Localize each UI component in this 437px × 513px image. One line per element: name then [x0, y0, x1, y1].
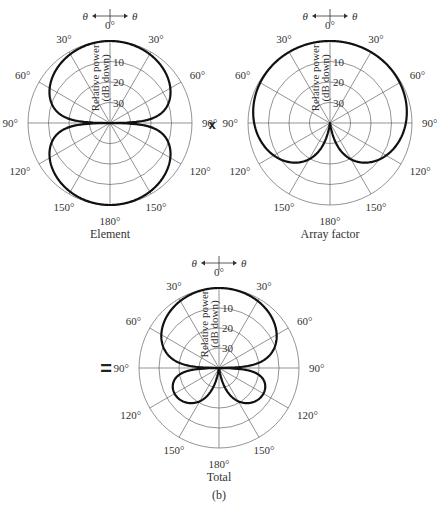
theta-symbol-left: θ: [83, 10, 89, 22]
angle-label: 90°: [223, 117, 238, 129]
arrow-left-icon: [312, 14, 316, 19]
times-operator: x: [208, 117, 216, 132]
figure-label: (b): [212, 488, 226, 502]
theta-symbol-right: θ: [241, 257, 247, 269]
arrow-right-icon: [344, 14, 348, 19]
angle-label: 60°: [126, 315, 141, 327]
angle-label: 30°: [368, 33, 383, 45]
angle-label: 150°: [274, 201, 295, 213]
radial-tick-label: 30: [113, 97, 125, 109]
angle-label: 150°: [146, 201, 167, 213]
radial-tick-label: 20: [222, 322, 234, 334]
angle-label: 90°: [114, 362, 129, 374]
polar-figure: 0°30°30°60°60°90°90°120°120°150°150°180°…: [0, 0, 437, 513]
angle-label: 60°: [410, 69, 425, 81]
radial-tick-label: 10: [333, 56, 345, 68]
angle-label: 30°: [256, 280, 271, 292]
angle-label: 180°: [100, 215, 121, 227]
polar-plot-array_factor: 0°30°30°60°60°90°90°120°120°150°150°180°…: [223, 9, 437, 241]
theta-symbol-left: θ: [192, 257, 198, 269]
angle-label: 30°: [166, 280, 181, 292]
angle-label: 30°: [56, 33, 71, 45]
polar-plot-element: 0°30°30°60°60°90°90°120°120°150°150°180°…: [3, 9, 218, 241]
theta-symbol-left: θ: [303, 10, 309, 22]
radial-tick-label: 10: [113, 56, 125, 68]
theta-symbol-right: θ: [132, 10, 138, 22]
angle-label: 30°: [148, 33, 163, 45]
arrow-left-icon: [201, 261, 205, 266]
angle-label: 90°: [3, 117, 18, 129]
angle-label: 180°: [209, 458, 230, 470]
arrow-left-icon: [92, 14, 96, 19]
angle-label: 150°: [254, 444, 275, 456]
angle-label: 120°: [410, 165, 431, 177]
angle-label: 30°: [276, 33, 291, 45]
angle-label: 90°: [422, 117, 437, 129]
radial-tick-label: 30: [222, 342, 234, 354]
arrow-right-icon: [124, 14, 128, 19]
radial-tick-label: 20: [113, 76, 125, 88]
angle-label: 60°: [15, 69, 30, 81]
angle-label: 60°: [297, 315, 312, 327]
radial-axis-label: Relative power(dB down): [309, 44, 332, 111]
radial-axis-label: Relative power(dB down): [198, 290, 221, 357]
angle-label: 120°: [229, 165, 250, 177]
angle-label: 150°: [164, 444, 185, 456]
angle-label: 180°: [320, 215, 341, 227]
angle-label: 60°: [190, 69, 205, 81]
radial-tick-label: 30: [333, 97, 345, 109]
radial-tick-label: 20: [333, 76, 345, 88]
plot-caption-element: Element: [90, 227, 131, 241]
theta-symbol-right: θ: [352, 10, 358, 22]
angle-label: 120°: [120, 409, 141, 421]
arrow-right-icon: [233, 261, 237, 266]
angle-label: 60°: [235, 69, 250, 81]
equals-operator: =: [100, 357, 112, 379]
plot-caption-array_factor: Array factor: [301, 227, 360, 241]
radial-tick-label: 10: [222, 302, 234, 314]
angle-label: 120°: [9, 165, 30, 177]
angle-label: 150°: [366, 201, 387, 213]
angle-label: 120°: [190, 165, 211, 177]
angle-label: 90°: [309, 362, 324, 374]
polar-plot-total: 0°30°30°60°60°90°90°120°120°150°150°180°…: [114, 256, 325, 484]
angle-label: 120°: [297, 409, 318, 421]
plot-caption-total: Total: [207, 470, 232, 484]
radial-axis-label: Relative power(dB down): [89, 44, 112, 111]
angle-label: 150°: [54, 201, 75, 213]
